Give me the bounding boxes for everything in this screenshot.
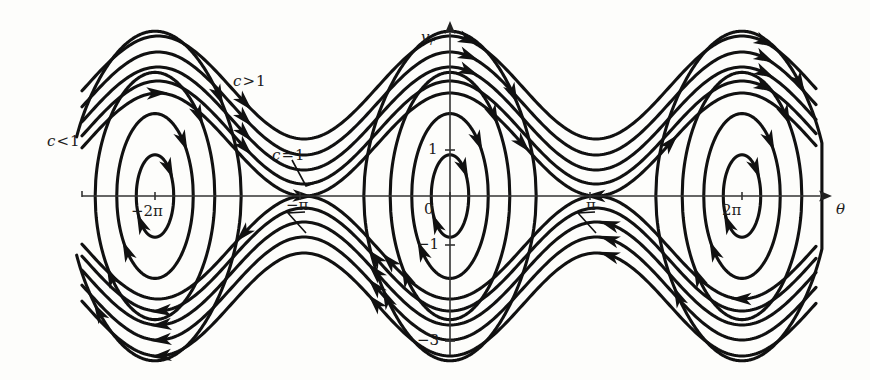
arrowhead-librating-c2-4-b <box>432 214 446 236</box>
annotation-c-equals-1: c=1 <box>272 148 305 163</box>
y-tick-label-1: 1 <box>428 142 438 157</box>
x-tick-label-0: 0 <box>424 202 434 217</box>
x-tick-label-pi: π <box>586 198 596 213</box>
y-tick-label-minus-1: −1 <box>417 237 439 252</box>
arrowhead-librating-c1-4-a <box>159 157 173 179</box>
x-tick-label-2pi: 2π <box>722 203 741 218</box>
y-axis-label: vr <box>421 30 434 47</box>
annotation-c-less-than-1: c<1 <box>47 134 80 149</box>
phase-portrait-figure: vr θ −2π −π 0 π 2π 1 −1 −3 c>1 c<1 c=1 <box>0 0 870 380</box>
x-tick-label-minus-pi: −π <box>286 198 308 213</box>
x-axis-label: θ <box>836 202 845 217</box>
arrowhead-librating-c3-4-a <box>746 157 760 179</box>
annotation-c-greater-than-1: c>1 <box>233 74 266 89</box>
phase-portrait-canvas <box>0 0 870 380</box>
y-tick-label-minus-3: −3 <box>417 333 439 348</box>
x-tick-label-minus-2pi: −2π <box>131 204 163 219</box>
arrowhead-librating-c2-4-a <box>454 157 468 179</box>
